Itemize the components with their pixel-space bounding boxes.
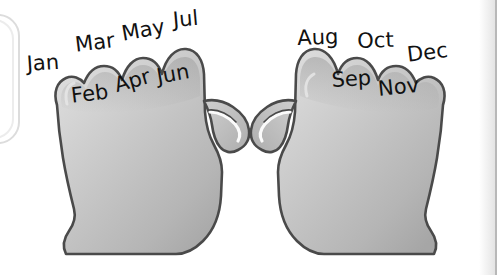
left-fist-group xyxy=(55,49,249,254)
month-label-dec: Dec xyxy=(406,40,449,66)
month-label-jul: Jul xyxy=(172,8,199,31)
month-label-jan: Jan xyxy=(26,52,60,75)
month-label-oct: Oct xyxy=(357,30,394,52)
figure-canvas: JanFebMarAprMayJunJulAugSepOctNovDec xyxy=(0,0,500,275)
month-label-feb: Feb xyxy=(70,81,109,106)
month-label-nov: Nov xyxy=(377,75,420,100)
month-label-mar: Mar xyxy=(74,30,116,56)
month-label-jun: Jun xyxy=(155,61,191,87)
month-label-aug: Aug xyxy=(297,27,339,49)
month-label-sep: Sep xyxy=(331,68,372,91)
